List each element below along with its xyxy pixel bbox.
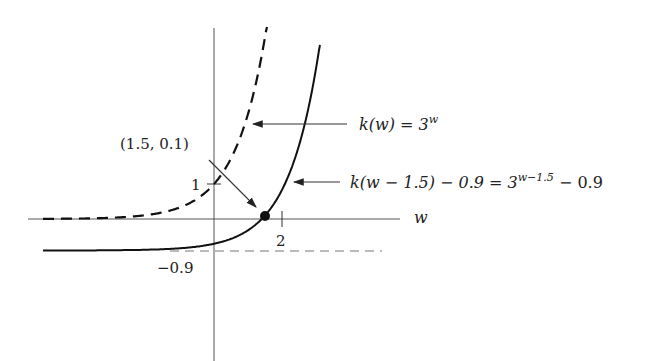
axis-label-w: w	[414, 208, 428, 227]
curve2-label: k(w − 1.5) − 0.9 = 3w−1.5 − 0.9	[350, 171, 603, 192]
point-1-5-0-1	[260, 211, 270, 221]
tick-label-neg-0-9: −0.9	[157, 259, 193, 277]
tick-label-1: 1	[191, 176, 201, 194]
curve-3-to-w	[43, 27, 267, 219]
point-label: (1.5, 0.1)	[120, 135, 189, 153]
exponential-transformation-diagram: w 2 1 −0.9 (1.5, 0.1) k(w) = 3w k(w − 1.…	[0, 0, 663, 361]
curve1-label: k(w) = 3w	[359, 113, 439, 134]
tick-label-2: 2	[276, 232, 286, 250]
